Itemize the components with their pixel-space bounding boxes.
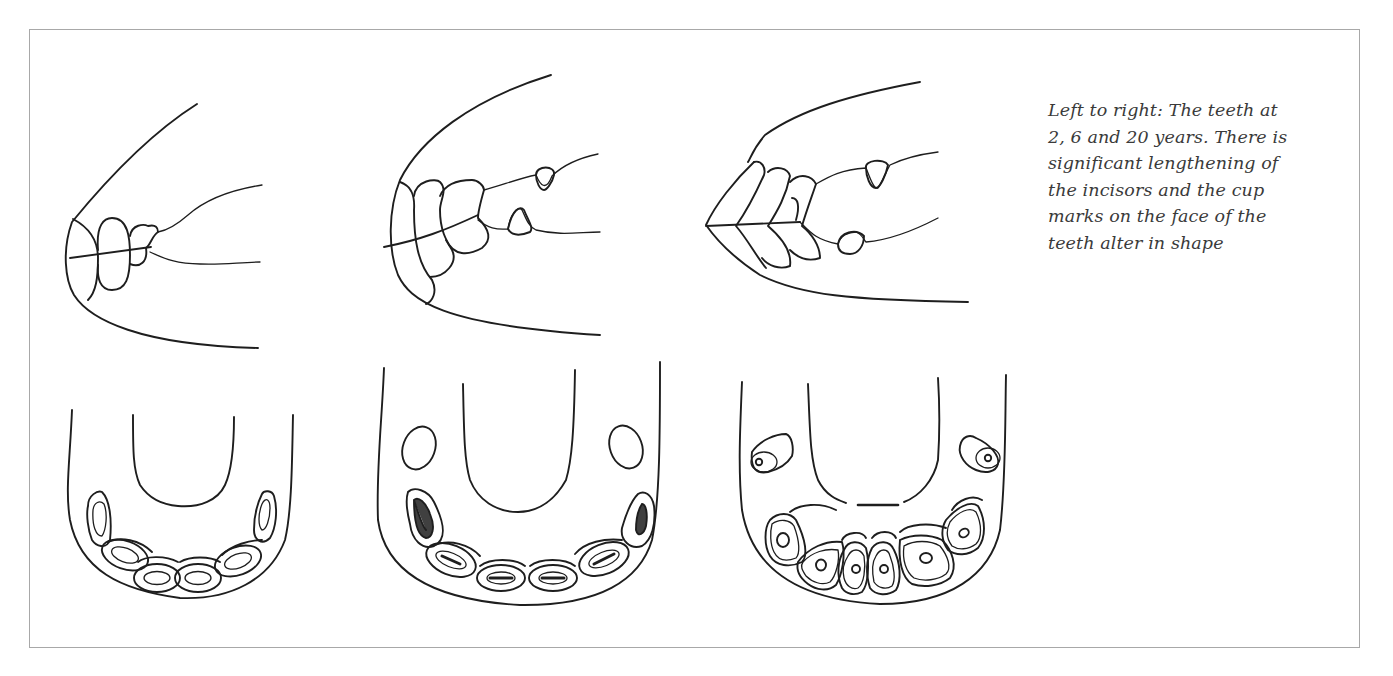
side-profile-20-years [706,82,968,302]
side-profile-2-years [66,104,262,348]
occlusal-view-6-years [378,362,660,605]
caption-line: Left to right: The teeth at [1048,97,1353,124]
side-profile-6-years [384,75,600,335]
caption-line: marks on the face of the [1048,203,1353,230]
figure-caption: Left to right: The teeth at 2, 6 and 20 … [1048,97,1353,256]
caption-line: the incisors and the cup [1048,177,1353,204]
caption-line: significant lengthening of [1048,150,1353,177]
caption-line: teeth alter in shape [1048,230,1353,257]
occlusal-view-20-years [740,375,1006,604]
caption-line: 2, 6 and 20 years. There is [1048,124,1353,151]
occlusal-view-2-years [68,410,293,598]
